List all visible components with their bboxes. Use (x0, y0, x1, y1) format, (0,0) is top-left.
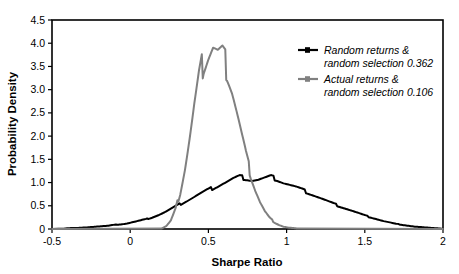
y-tick-label: 1.0 (30, 176, 45, 188)
y-tick-label: 0.5 (30, 199, 45, 211)
x-tick-label: 2 (440, 235, 446, 247)
y-axis-title: Probability Density (6, 71, 18, 176)
chart-page: 00.51.01.52.02.53.03.54.04.5 -0.500.511.… (0, 0, 459, 274)
y-tick-label: 2.5 (30, 106, 45, 118)
x-tick-label: 0.5 (201, 235, 216, 247)
chart-background (0, 0, 459, 274)
y-tick-label: 0 (39, 223, 45, 235)
legend-label-actual-returns-line1: Actual returns & (323, 73, 399, 85)
x-axis-title: Sharpe Ratio (212, 256, 283, 268)
legend-label-random-returns-line2: random selection 0.362 (324, 57, 433, 69)
legend-label-random-returns-line1: Random returns & (324, 44, 409, 56)
sharpe-ratio-distribution-chart: 00.51.01.52.02.53.03.54.04.5 -0.500.511.… (0, 0, 459, 274)
legend-marker-gray-square (305, 76, 310, 82)
legend-label-actual-returns-line2: random selection 0.106 (324, 86, 433, 98)
x-tick-label: 1 (284, 235, 290, 247)
x-tick-label: 0 (127, 235, 133, 247)
y-tick-label: 1.5 (30, 153, 45, 165)
x-tick-label: -0.5 (43, 235, 61, 247)
y-tick-label: 3.5 (30, 60, 45, 72)
y-tick-label: 3.0 (30, 83, 45, 95)
y-tick-label: 4.5 (30, 14, 45, 26)
x-tick-label: 1.5 (357, 235, 372, 247)
y-tick-label: 2.0 (30, 130, 45, 142)
legend-marker-black-square (305, 47, 310, 53)
y-tick-label: 4.0 (30, 37, 45, 49)
